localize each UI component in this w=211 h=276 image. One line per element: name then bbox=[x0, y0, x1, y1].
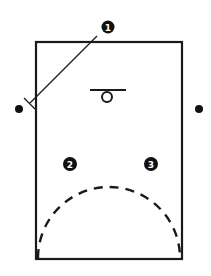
right-marker-dot bbox=[195, 105, 203, 113]
player-2-label: 2 bbox=[67, 160, 73, 170]
screen-path-line bbox=[30, 36, 97, 103]
left-marker-dot bbox=[15, 105, 23, 113]
player-1-marker: 1 bbox=[102, 21, 115, 34]
player-1-label: 1 bbox=[105, 23, 111, 33]
play-diagram: 1 2 3 bbox=[0, 0, 211, 276]
player-2-marker: 2 bbox=[63, 157, 77, 171]
dashed-arc bbox=[38, 187, 180, 258]
player-3-marker: 3 bbox=[144, 157, 158, 171]
basket-rim-icon bbox=[102, 92, 112, 102]
player-3-label: 3 bbox=[148, 160, 154, 170]
